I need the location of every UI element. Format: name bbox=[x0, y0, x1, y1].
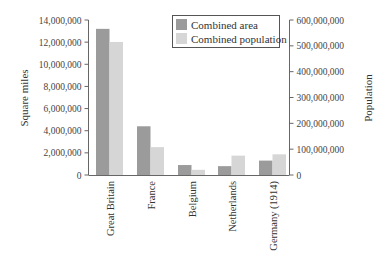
legend-swatch-population bbox=[176, 33, 187, 44]
bar-area bbox=[259, 161, 273, 175]
left-tick-label: 12,000,000 bbox=[39, 38, 82, 48]
right-tick-label: 500,000,000 bbox=[297, 41, 345, 51]
bar-population bbox=[273, 154, 287, 175]
bar-area bbox=[218, 166, 232, 175]
left-tick-label: 2,000,000 bbox=[44, 148, 82, 158]
legend: Combined area Combined population bbox=[173, 16, 288, 48]
legend-label-area: Combined area bbox=[191, 19, 258, 31]
category-label: Netherlands bbox=[227, 181, 238, 232]
left-tick-label: 8,000,000 bbox=[44, 82, 82, 92]
bar-chart: 02,000,0004,000,0006,000,0008,000,00010,… bbox=[0, 0, 385, 266]
bar-population bbox=[151, 147, 165, 175]
right-tick-label: 400,000,000 bbox=[297, 67, 345, 77]
category-label: Great Britain bbox=[105, 180, 116, 236]
legend-swatch-area bbox=[176, 19, 187, 30]
bars bbox=[96, 29, 286, 175]
right-axis: 0100,000,000200,000,000300,000,000400,00… bbox=[290, 16, 345, 181]
bar-area bbox=[137, 126, 151, 175]
right-tick-label: 300,000,000 bbox=[297, 93, 345, 103]
left-tick-label: 4,000,000 bbox=[44, 126, 82, 136]
right-tick-label: 600,000,000 bbox=[297, 16, 345, 26]
left-tick-label: 10,000,000 bbox=[39, 60, 82, 70]
category-labels: Great BritainFranceBelgiumNetherlandsGer… bbox=[105, 180, 280, 250]
category-label: Germany (1914) bbox=[268, 180, 280, 250]
right-tick-label: 0 bbox=[297, 171, 302, 181]
right-tick-label: 100,000,000 bbox=[297, 145, 345, 155]
right-axis-title: Population bbox=[362, 74, 374, 122]
legend-label-population: Combined population bbox=[191, 33, 287, 45]
bar-area bbox=[178, 165, 192, 175]
category-label: Belgium bbox=[187, 181, 198, 217]
bar-population bbox=[192, 170, 206, 175]
left-tick-label: 14,000,000 bbox=[39, 16, 82, 26]
left-axis-title: Square miles bbox=[18, 69, 30, 126]
bar-population bbox=[232, 156, 246, 175]
bar-population bbox=[110, 42, 124, 175]
left-tick-label: 0 bbox=[77, 171, 82, 181]
right-tick-label: 200,000,000 bbox=[297, 119, 345, 129]
bar-area bbox=[96, 29, 110, 175]
category-label: France bbox=[146, 181, 157, 210]
left-tick-label: 6,000,000 bbox=[44, 104, 82, 114]
